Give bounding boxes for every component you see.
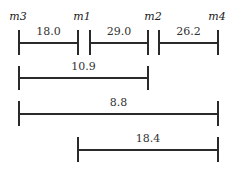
interval-distance-label: 18.4 bbox=[136, 133, 161, 144]
interval-distance-label: 29.0 bbox=[107, 26, 132, 37]
interval-tick-left bbox=[18, 66, 20, 90]
interval-distance-label: 10.9 bbox=[71, 61, 96, 72]
interval-tick-right bbox=[217, 137, 219, 162]
interval-tick-left bbox=[18, 101, 20, 126]
interval-distance-label: 18.0 bbox=[36, 26, 61, 37]
interval-tick-left bbox=[77, 137, 79, 162]
interval-tick-left bbox=[18, 30, 20, 55]
interval-line-m1-m2 bbox=[89, 42, 148, 44]
interval-line-m1-m4 bbox=[77, 149, 218, 151]
interval-tick-right bbox=[217, 101, 219, 126]
interval-tick-right bbox=[217, 30, 219, 55]
interval-line-m3-m4 bbox=[18, 113, 218, 115]
interval-line-m3-m1 bbox=[18, 42, 78, 44]
interval-distance-label: 8.8 bbox=[110, 97, 128, 108]
interval-tick-right bbox=[77, 30, 79, 55]
interval-distance-label: 26.2 bbox=[176, 26, 201, 37]
marker-label-m4: m4 bbox=[208, 11, 225, 22]
interval-line-m2-m4 bbox=[158, 42, 218, 44]
marker-label-m1: m1 bbox=[73, 11, 90, 22]
interval-line-m3-m2 bbox=[18, 77, 148, 79]
interval-tick-right bbox=[147, 66, 149, 90]
interval-tick-left bbox=[89, 30, 91, 55]
marker-label-m2: m2 bbox=[144, 11, 161, 22]
interval-tick-left bbox=[158, 30, 160, 55]
interval-tick-right bbox=[147, 30, 149, 55]
marker-label-m3: m3 bbox=[9, 11, 26, 22]
